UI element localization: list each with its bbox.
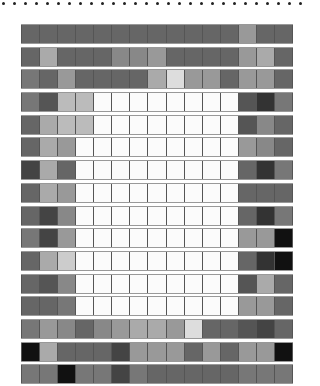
grid-cell[interactable] — [129, 70, 147, 88]
grid-cell[interactable] — [274, 252, 293, 270]
grid-cell[interactable] — [166, 184, 184, 202]
grid-cell[interactable] — [274, 70, 293, 88]
grid-cell[interactable] — [256, 343, 274, 361]
grid-cell[interactable] — [274, 138, 293, 156]
grid-cell[interactable] — [220, 184, 238, 202]
grid-cell[interactable] — [129, 229, 147, 247]
grid-cell[interactable] — [166, 320, 184, 338]
grid-cell[interactable] — [202, 138, 220, 156]
grid-cell[interactable] — [238, 365, 256, 383]
grid-cell[interactable] — [75, 48, 93, 66]
grid-cell[interactable] — [93, 207, 111, 225]
grid-cell[interactable] — [184, 184, 202, 202]
grid-cell[interactable] — [184, 365, 202, 383]
grid-cell[interactable] — [93, 70, 111, 88]
grid-cell[interactable] — [238, 138, 256, 156]
grid-cell[interactable] — [93, 138, 111, 156]
grid-cell[interactable] — [75, 207, 93, 225]
grid-cell[interactable] — [57, 161, 75, 179]
grid-cell[interactable] — [147, 138, 165, 156]
grid-cell[interactable] — [184, 48, 202, 66]
grid-cell[interactable] — [238, 252, 256, 270]
grid-cell[interactable] — [129, 48, 147, 66]
grid-cell[interactable] — [39, 161, 57, 179]
grid-cell[interactable] — [184, 297, 202, 315]
grid-cell[interactable] — [256, 116, 274, 134]
grid-cell[interactable] — [256, 275, 274, 293]
grid-cell[interactable] — [111, 48, 129, 66]
grid-cell[interactable] — [21, 93, 39, 111]
grid-cell[interactable] — [220, 25, 238, 43]
grid-cell[interactable] — [238, 48, 256, 66]
grid-cell[interactable] — [129, 184, 147, 202]
grid-cell[interactable] — [75, 320, 93, 338]
grid-cell[interactable] — [111, 252, 129, 270]
grid-cell[interactable] — [111, 70, 129, 88]
grid-cell[interactable] — [21, 252, 39, 270]
grid-cell[interactable] — [238, 116, 256, 134]
grid-cell[interactable] — [39, 25, 57, 43]
grid-cell[interactable] — [256, 229, 274, 247]
grid-cell[interactable] — [256, 70, 274, 88]
grid-cell[interactable] — [202, 48, 220, 66]
grid-cell[interactable] — [93, 320, 111, 338]
grid-cell[interactable] — [220, 365, 238, 383]
grid-cell[interactable] — [75, 116, 93, 134]
grid-cell[interactable] — [202, 184, 220, 202]
grid-cell[interactable] — [75, 70, 93, 88]
grid-cell[interactable] — [21, 25, 39, 43]
grid-cell[interactable] — [147, 252, 165, 270]
grid-cell[interactable] — [111, 297, 129, 315]
grid-cell[interactable] — [238, 275, 256, 293]
grid-cell[interactable] — [129, 93, 147, 111]
grid-cell[interactable] — [39, 138, 57, 156]
grid-cell[interactable] — [220, 320, 238, 338]
grid-cell[interactable] — [147, 275, 165, 293]
grid-cell[interactable] — [21, 229, 39, 247]
grid-cell[interactable] — [111, 343, 129, 361]
grid-cell[interactable] — [202, 207, 220, 225]
grid-cell[interactable] — [147, 343, 165, 361]
grid-cell[interactable] — [21, 48, 39, 66]
grid-cell[interactable] — [129, 207, 147, 225]
grid-cell[interactable] — [93, 93, 111, 111]
grid-cell[interactable] — [238, 161, 256, 179]
grid-cell[interactable] — [184, 320, 202, 338]
grid-cell[interactable] — [57, 138, 75, 156]
grid-cell[interactable] — [21, 297, 39, 315]
grid-cell[interactable] — [111, 275, 129, 293]
grid-cell[interactable] — [111, 93, 129, 111]
grid-cell[interactable] — [39, 365, 57, 383]
grid-cell[interactable] — [93, 161, 111, 179]
grid-cell[interactable] — [147, 184, 165, 202]
grid-cell[interactable] — [184, 343, 202, 361]
grid-cell[interactable] — [256, 365, 274, 383]
grid-cell[interactable] — [39, 252, 57, 270]
grid-cell[interactable] — [129, 25, 147, 43]
grid-cell[interactable] — [93, 275, 111, 293]
grid-cell[interactable] — [57, 116, 75, 134]
grid-cell[interactable] — [111, 320, 129, 338]
grid-cell[interactable] — [166, 93, 184, 111]
grid-cell[interactable] — [256, 161, 274, 179]
grid-cell[interactable] — [75, 343, 93, 361]
grid-cell[interactable] — [202, 161, 220, 179]
grid-cell[interactable] — [238, 93, 256, 111]
grid-cell[interactable] — [238, 343, 256, 361]
grid-cell[interactable] — [256, 184, 274, 202]
grid-cell[interactable] — [111, 207, 129, 225]
grid-cell[interactable] — [57, 343, 75, 361]
grid-cell[interactable] — [93, 184, 111, 202]
grid-cell[interactable] — [21, 138, 39, 156]
grid-cell[interactable] — [57, 275, 75, 293]
grid-cell[interactable] — [238, 320, 256, 338]
grid-cell[interactable] — [111, 365, 129, 383]
grid-cell[interactable] — [39, 116, 57, 134]
grid-cell[interactable] — [93, 25, 111, 43]
grid-cell[interactable] — [220, 70, 238, 88]
grid-cell[interactable] — [147, 297, 165, 315]
grid-cell[interactable] — [202, 25, 220, 43]
grid-cell[interactable] — [147, 365, 165, 383]
grid-cell[interactable] — [184, 252, 202, 270]
grid-cell[interactable] — [75, 25, 93, 43]
